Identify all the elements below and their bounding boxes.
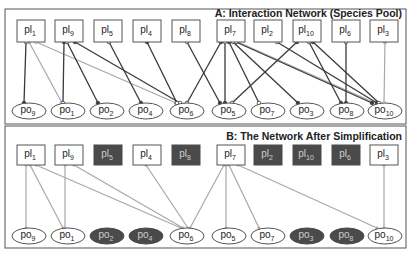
pollinator-node-po4: po4 [129,103,163,119]
pollinator-node-po3: po3 [290,228,324,244]
plant-node-pl2: pl2 [254,20,282,42]
edge-pl7-po10 [238,165,377,228]
pollinator-node-po4: po4 [129,228,163,244]
plant-node-pl4: pl4 [133,20,161,42]
plant-node-pl1: pl1 [17,20,45,42]
pollinator-node-po2: po2 [90,228,124,244]
plant-node-pl10: pl10 [293,20,321,42]
edge-pl9-po6 [75,42,180,103]
pollinator-node-po3: po3 [290,103,324,119]
plant-node-pl8: pl8 [172,20,200,42]
pollinator-node-po2: po2 [90,103,124,119]
pollinator-node-po5: po5 [212,228,246,244]
panel-b-edges [24,163,385,229]
edge-pl7-po10b [236,42,372,103]
pollinator-node-po10: po10 [368,228,402,244]
edge-pl4-po6 [147,42,177,103]
plant-node-pl3: pl3 [370,20,398,42]
edge-pl2-po10 [277,42,377,103]
pollinator-node-po7: po7 [251,103,285,119]
network-figure: A: Interaction Network (Species Pool) pl… [0,0,409,254]
edge-pl7-po3 [233,42,298,103]
edge-pl7-po7 [229,42,259,103]
pollinator-node-po1: po1 [51,103,85,119]
edge-pl9-po1 [63,42,64,103]
plant-node-pl9: pl9 [55,20,83,42]
plant-node-pl7: pl7 [217,145,245,165]
plant-node-pl5: pl5 [94,145,122,165]
edge-end-marker [370,101,374,105]
plant-node-pl8: pl8 [172,145,200,165]
pollinator-node-po8: po8 [330,103,364,119]
edge-pl10-po8 [309,42,341,103]
plant-node-pl9: pl9 [55,145,83,165]
edge-pl7-po7 [229,165,259,228]
pollinator-node-po10: po10 [368,103,402,119]
plant-node-pl2: pl2 [254,145,282,165]
edge-pl9-po2 [67,42,98,103]
pollinator-node-po5: po5 [212,103,246,119]
plant-node-pl7: pl7 [217,20,245,42]
plant-node-pl3: pl3 [370,145,398,165]
panel-b-nodes: pl1pl9pl5pl4pl8pl7pl2pl10pl6pl3po9po1po2… [12,145,402,244]
plant-node-pl6: pl6 [332,20,360,42]
edge-pl5-po4 [109,42,141,103]
edge-pl7-po10 [238,42,375,103]
pollinator-node-po9: po9 [12,103,46,119]
pollinator-node-po6: po6 [170,103,204,119]
edge-pl3-po10 [384,42,385,103]
pollinator-node-po6: po6 [170,228,204,244]
plant-node-pl1: pl1 [17,145,45,165]
panel-a-title: A: Interaction Network (Species Pool) [215,7,402,19]
panel-a-edges [22,40,387,105]
plant-node-pl6: pl6 [332,145,360,165]
plant-node-pl4: pl4 [133,145,161,165]
pollinator-node-po1: po1 [51,228,85,244]
pollinator-node-po8: po8 [330,228,364,244]
pollinator-node-po7: po7 [251,228,285,244]
edge-pl1-po9 [24,42,26,103]
panel-b-title: B: The Network After Simplification [226,130,402,142]
edge-pl7-po6 [190,165,224,228]
plant-node-pl5: pl5 [94,20,122,42]
edge-pl10-po5 [232,42,297,103]
pollinator-node-po9: po9 [12,228,46,244]
plant-node-pl10: pl10 [293,145,321,165]
